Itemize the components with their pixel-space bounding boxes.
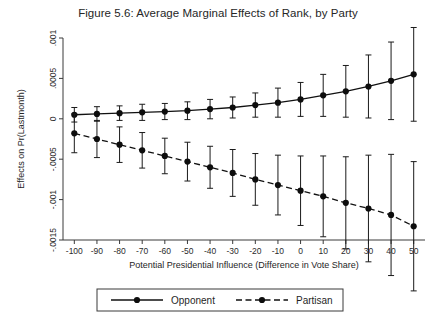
- data-point-partisan[interactable]: [343, 200, 349, 206]
- data-point-opponent[interactable]: [162, 108, 168, 114]
- y-axis: .001.00050-.0005-.001-.0015: [48, 29, 63, 252]
- y-tick-label: -.0015: [48, 228, 58, 252]
- data-point-partisan[interactable]: [230, 170, 236, 176]
- data-point-partisan[interactable]: [139, 147, 145, 153]
- x-tick-label: -50: [181, 246, 194, 256]
- data-point-opponent[interactable]: [365, 83, 371, 89]
- x-axis: -100-90-80-70-60-50-40-30-20-10010203040…: [63, 240, 425, 256]
- data-point-opponent[interactable]: [252, 102, 258, 108]
- data-point-partisan[interactable]: [162, 153, 168, 159]
- data-point-partisan[interactable]: [297, 188, 303, 194]
- y-axis-title: Effects on Pr(Lastmonth): [16, 89, 26, 188]
- data-point-opponent[interactable]: [184, 108, 190, 114]
- y-tick-label: -.0005: [48, 147, 58, 171]
- x-tick-label: -10: [272, 246, 285, 256]
- y-tick-label: .0005: [48, 67, 58, 89]
- chart-legend: OpponentPartisan: [97, 289, 343, 311]
- x-tick-label: -90: [91, 246, 104, 256]
- data-point-opponent[interactable]: [207, 106, 213, 112]
- x-axis-title: Potential Presidential Influence (Differ…: [129, 260, 358, 270]
- x-tick-label: -80: [113, 246, 126, 256]
- data-point-opponent[interactable]: [343, 88, 349, 94]
- x-tick-label: -40: [204, 246, 217, 256]
- data-point-partisan[interactable]: [207, 164, 213, 170]
- data-point-partisan[interactable]: [275, 182, 281, 188]
- y-tick-label: .001: [48, 29, 58, 46]
- figure-container: Figure 5.6: Average Marginal Effects of …: [0, 0, 436, 325]
- data-point-opponent[interactable]: [94, 111, 100, 117]
- legend-marker-opponent: [134, 297, 140, 303]
- data-point-partisan[interactable]: [388, 212, 394, 218]
- data-point-partisan[interactable]: [116, 142, 122, 148]
- data-point-opponent[interactable]: [320, 92, 326, 98]
- data-point-opponent[interactable]: [297, 96, 303, 102]
- data-point-partisan[interactable]: [184, 159, 190, 165]
- data-point-opponent[interactable]: [116, 110, 122, 116]
- x-tick-label: -60: [159, 246, 172, 256]
- data-point-partisan[interactable]: [94, 136, 100, 142]
- legend-label-partisan: Partisan: [296, 295, 333, 306]
- x-tick-label: -30: [227, 246, 240, 256]
- y-tick-label: 0: [48, 116, 58, 121]
- x-tick-label: -100: [66, 246, 83, 256]
- x-tick-label: 0: [298, 246, 303, 256]
- y-tick-label: -.001: [48, 190, 58, 210]
- series-line-partisan: [74, 133, 413, 226]
- data-point-opponent[interactable]: [230, 104, 236, 110]
- data-point-partisan[interactable]: [252, 176, 258, 182]
- data-point-opponent[interactable]: [139, 109, 145, 115]
- data-point-partisan[interactable]: [365, 205, 371, 211]
- chart-canvas: .001.00050-.0005-.001-.0015 -100-90-80-7…: [0, 0, 436, 325]
- x-tick-label: -70: [136, 246, 149, 256]
- series-line-opponent: [74, 74, 413, 114]
- x-tick-label: -20: [249, 246, 262, 256]
- legend-label-opponent: Opponent: [171, 295, 215, 306]
- data-point-partisan[interactable]: [320, 193, 326, 199]
- data-point-opponent[interactable]: [275, 100, 281, 106]
- x-tick-label: 10: [318, 246, 328, 256]
- legend-marker-partisan: [259, 297, 265, 303]
- data-point-opponent[interactable]: [388, 78, 394, 84]
- data-point-opponent[interactable]: [411, 71, 417, 77]
- data-point-partisan[interactable]: [411, 223, 417, 229]
- data-point-partisan[interactable]: [71, 130, 77, 136]
